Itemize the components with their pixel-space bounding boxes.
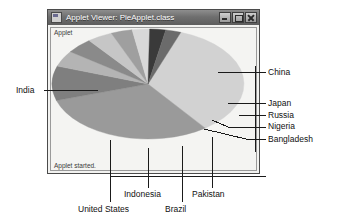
label-indonesia: Indonesia: [124, 190, 161, 199]
label-nigeria: Nigeria: [268, 122, 295, 131]
label-united-states: United States: [78, 205, 129, 214]
label-russia: Russia: [268, 111, 294, 120]
label-china: China: [268, 68, 290, 77]
label-india: India: [16, 86, 34, 95]
label-pakistan: Pakistan: [192, 190, 225, 199]
label-bangladesh: Bangladesh: [268, 135, 313, 144]
label-brazil: Brazil: [165, 205, 186, 214]
callout-labels: China Japan Russia Nigeria Bangladesh In…: [0, 0, 337, 224]
label-japan: Japan: [268, 99, 291, 108]
screenshot-root: Applet Viewer: PieApplet.class Applet Ap…: [0, 0, 337, 224]
